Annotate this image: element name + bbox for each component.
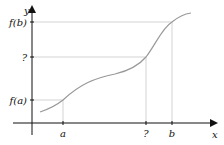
x-tick-label-q: ? bbox=[143, 128, 149, 139]
y-tick-label-fb: f(b) bbox=[8, 17, 27, 28]
function-curve bbox=[40, 13, 191, 112]
function-graph: y x f(b) ? f(a) a ? b bbox=[0, 0, 224, 145]
y-tick-label-q: ? bbox=[22, 52, 28, 63]
y-axis-label: y bbox=[23, 5, 30, 16]
x-tick-label-a: a bbox=[60, 128, 66, 139]
x-axis-label: x bbox=[212, 129, 218, 140]
x-tick-label-b: b bbox=[169, 128, 175, 139]
guide-lines bbox=[32, 22, 172, 123]
y-tick-label-fa: f(a) bbox=[9, 95, 28, 106]
